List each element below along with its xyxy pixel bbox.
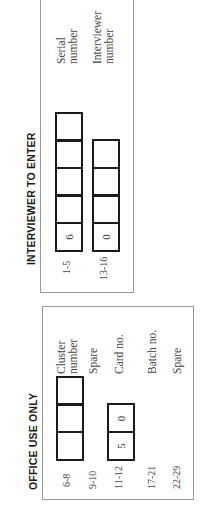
serial-box-3[interactable] bbox=[55, 167, 83, 197]
interviewer-number-boxes: 0 bbox=[92, 140, 120, 253]
serial-number-boxes: 6 bbox=[55, 112, 83, 252]
questionnaire-coding-header: OFFICE USE ONLY 6-8 Cluster number 9-10 … bbox=[0, 0, 213, 530]
serial-box-5[interactable] bbox=[55, 112, 83, 142]
cluster-columns: 6-8 bbox=[61, 474, 72, 487]
interviewer-box-3[interactable] bbox=[92, 167, 120, 197]
card-box-1[interactable]: 5 bbox=[107, 431, 135, 461]
serial-columns: 1-5 bbox=[61, 261, 72, 274]
card-columns: 11-12 bbox=[113, 466, 124, 489]
office-use-frame: 6-8 Cluster number 9-10 Spare 11-12 5 0 … bbox=[42, 306, 194, 500]
spare-label-2: Spare bbox=[171, 348, 183, 374]
spare-columns-1: 9-10 bbox=[87, 471, 98, 489]
cluster-label: Cluster number bbox=[55, 339, 79, 374]
card-number-boxes: 5 0 bbox=[107, 404, 135, 462]
office-use-heading: OFFICE USE ONLY bbox=[27, 393, 39, 490]
spare-label-1: Spare bbox=[87, 348, 99, 374]
spare-columns-2: 22-29 bbox=[171, 466, 182, 489]
interviewer-box-4[interactable] bbox=[92, 140, 120, 170]
cluster-number-boxes bbox=[56, 376, 84, 461]
cluster-box-2[interactable] bbox=[56, 404, 84, 434]
cluster-box-3[interactable] bbox=[56, 376, 84, 406]
batch-columns: 17-21 bbox=[146, 466, 157, 489]
batch-label: Batch no. bbox=[146, 330, 158, 374]
serial-box-4[interactable] bbox=[55, 140, 83, 170]
interviewer-heading: INTERVIEWER TO ENTER bbox=[25, 132, 37, 265]
serial-box-2[interactable] bbox=[55, 195, 83, 225]
interviewer-box-2[interactable] bbox=[92, 195, 120, 225]
serial-label: Serial number bbox=[55, 29, 79, 64]
interviewer-box-1[interactable]: 0 bbox=[92, 222, 120, 252]
interviewer-frame: 1-5 6 Serial number 13-16 0 Interviewer … bbox=[40, 0, 134, 293]
interviewer-label: Interviewer number bbox=[91, 11, 115, 64]
card-label: Card no. bbox=[113, 334, 125, 374]
cluster-box-1[interactable] bbox=[56, 431, 84, 461]
serial-box-1[interactable]: 6 bbox=[55, 222, 83, 252]
interviewer-columns: 13-16 bbox=[98, 257, 109, 280]
card-box-2[interactable]: 0 bbox=[107, 404, 135, 434]
